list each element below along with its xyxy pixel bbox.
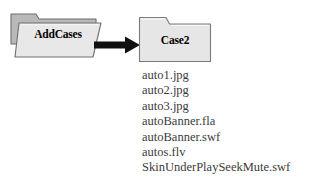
- source-folder-label: AddCases: [8, 28, 108, 40]
- list-item: SkinUnderPlaySeekMute.swf: [142, 160, 290, 175]
- arrow-right-icon: [94, 34, 142, 56]
- diagram-canvas: AddCases Case2 auto1.jpg auto2.jpg auto3…: [0, 0, 318, 186]
- file-list: auto1.jpg auto2.jpg auto3.jpg autoBanner…: [142, 68, 290, 176]
- list-item: autoBanner.fla: [142, 114, 290, 129]
- list-item: autoBanner.swf: [142, 130, 290, 145]
- list-item: auto2.jpg: [142, 83, 290, 98]
- target-folder-case2[interactable]: Case2: [137, 15, 213, 64]
- target-folder-label: Case2: [137, 34, 213, 46]
- source-folder-addcases[interactable]: AddCases: [8, 11, 108, 61]
- list-item: autos.flv: [142, 145, 290, 160]
- list-item: auto3.jpg: [142, 99, 290, 114]
- list-item: auto1.jpg: [142, 68, 290, 83]
